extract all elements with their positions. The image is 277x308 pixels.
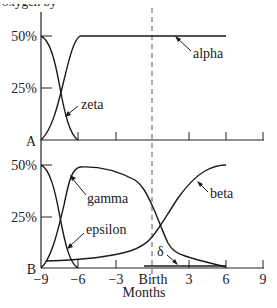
delta-label: δ (157, 244, 164, 259)
beta-label: beta (210, 186, 234, 201)
gamma-label: gamma (87, 191, 129, 206)
x-tick-9: 9 (260, 272, 267, 287)
x-axis-label: Months (123, 285, 166, 300)
alpha-label: alpha (193, 46, 224, 61)
zeta-label: zeta (81, 97, 104, 112)
x-tick-minus6: −6 (71, 272, 86, 287)
panel-b-y-tick-25: 25% (11, 210, 37, 225)
panel-a-y-tick-25: 25% (11, 81, 37, 96)
panel-b: 50% 25% B gamma epsilon beta δ −9 −6 −3 … (11, 146, 266, 300)
x-tick-3: 3 (186, 272, 193, 287)
x-tick-minus3: −3 (109, 272, 124, 287)
panel-a-label: A (26, 134, 37, 149)
panel-a: 50% 25% A alpha zeta (11, 12, 264, 149)
x-tick-6: 6 (223, 272, 230, 287)
x-tick-minus9: −9 (34, 272, 49, 287)
panel-b-y-tick-50: 50% (11, 158, 37, 173)
hemoglobin-chart: oxygen by 50% 25% A alpha zeta (0, 0, 277, 308)
epsilon-label: epsilon (86, 222, 126, 237)
panel-a-y-tick-50: 50% (11, 29, 37, 44)
